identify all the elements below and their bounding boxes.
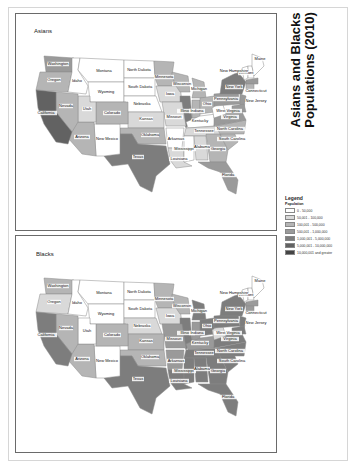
state-label-texas: Texas — [133, 376, 143, 381]
state-label-connecticut: Connecticut — [245, 310, 267, 315]
state-label-oklahoma: Oklahoma — [141, 132, 160, 137]
state-label-utah: Utah — [83, 106, 91, 111]
state-label-ohio: Ohio — [203, 101, 212, 106]
legend-row: 5,000,001 - 10,000,000 — [285, 242, 347, 249]
state-label-arkansas: Arkansas — [168, 136, 185, 141]
legend-row: 10,000,001 and greater — [285, 249, 347, 256]
legend-row: 1,000,001 - 5,000,000 — [285, 235, 347, 242]
state-label-nevada: Nevada — [59, 103, 74, 108]
state-label-oregon: Oregon — [47, 77, 60, 82]
state-label-south-dakota: South Dakota — [128, 84, 153, 89]
state-label-new-york: New York — [226, 306, 243, 311]
state-label-ohio: Ohio — [203, 323, 212, 328]
legend-swatch — [285, 236, 295, 241]
legend-title: Legend — [285, 195, 347, 201]
state-label-idaho: Idaho — [72, 78, 83, 83]
legend-label: 50,001 - 100,000 — [297, 216, 323, 220]
state-label-virginia: Virginia — [223, 336, 237, 341]
state-florida — [198, 384, 238, 416]
state-label-kentucky: Kentucky — [192, 118, 208, 123]
asians-us-map: WashingtonOregonIdahoMontanaWyomingNorth… — [16, 14, 276, 230]
state-label-oklahoma: Oklahoma — [141, 354, 160, 359]
legend-label: 500,001 - 1,000,000 — [297, 230, 327, 234]
state-label-louisiana: Louisiana — [170, 156, 188, 161]
legend-label: 1,000,001 - 5,000,000 — [297, 237, 330, 241]
state-label-new-mexico: New Mexico — [96, 358, 119, 363]
state-label-north-carolina: North Carolina — [217, 126, 244, 131]
state-label-connecticut: Connecticut — [245, 88, 267, 93]
state-label-pennsylvania: Pennsylvania — [214, 96, 239, 101]
state-label-nevada: Nevada — [59, 325, 74, 330]
state-label-minnesota: Minnesota — [155, 296, 174, 301]
legend-subtitle: Population — [285, 202, 347, 206]
state-label-georgia: Georgia — [211, 368, 226, 373]
asians-map-frame: Asians WashingtonOregonIdahoMontanaWyomi… — [15, 13, 277, 231]
state-label-missouri: Missouri — [167, 336, 182, 341]
state-label-kansas: Kansas — [139, 338, 152, 343]
state-label-montana: Montana — [96, 68, 112, 73]
state-label-nebraska: Nebraska — [133, 323, 151, 328]
state-label-south-dakota: South Dakota — [128, 306, 153, 311]
state-label-utah: Utah — [83, 328, 91, 333]
state-label-new-hampshire: New Hampshire — [220, 68, 249, 73]
legend-swatch — [285, 222, 295, 227]
state-label-new-jersey: New Jersey — [246, 320, 267, 325]
legend-row: 100,001 - 500,000 — [285, 221, 347, 228]
state-label-michigan: Michigan — [191, 86, 207, 91]
legend-label: 100,001 - 500,000 — [297, 223, 325, 227]
state-massachusetts — [246, 78, 258, 84]
state-florida — [198, 162, 238, 194]
state-label-idaho: Idaho — [72, 300, 83, 305]
figure-title-line-1: Asians and Blacks — [289, 12, 303, 128]
state-massachusetts — [246, 300, 258, 306]
state-label-missouri: Missouri — [167, 114, 182, 119]
state-label-pennsylvania: Pennsylvania — [214, 318, 239, 323]
state-label-tennessee: Tennessee — [194, 128, 214, 133]
state-new-york — [220, 294, 246, 316]
state-label-oregon: Oregon — [47, 299, 60, 304]
legend-label: 10,000,001 and greater — [297, 251, 332, 255]
state-label-north-dakota: North Dakota — [127, 289, 151, 294]
state-label-georgia: Georgia — [211, 146, 226, 151]
legend-row: 50,001 - 100,000 — [285, 214, 347, 221]
legend-swatch — [285, 215, 295, 220]
state-label-indiana: Indiana — [190, 330, 204, 335]
state-label-wisconsin: Wisconsin — [173, 303, 191, 308]
state-label-tennessee: Tennessee — [194, 350, 214, 355]
legend: Legend Population 0 - 50,000 50,001 - 10… — [285, 195, 347, 256]
state-label-colorado: Colorado — [104, 332, 121, 337]
state-label-arkansas: Arkansas — [168, 358, 185, 363]
state-label-florida: Florida — [222, 172, 235, 177]
state-label-virginia: Virginia — [223, 114, 237, 119]
legend-label: 0 - 50,000 — [297, 209, 312, 213]
state-label-maine: Maine — [255, 56, 267, 61]
state-label-california: California — [38, 332, 56, 337]
state-label-new-jersey: New Jersey — [246, 98, 267, 103]
state-label-west-virginia: West Virginia — [216, 330, 240, 335]
state-label-nebraska: Nebraska — [133, 101, 151, 106]
state-label-new-mexico: New Mexico — [96, 136, 119, 141]
state-label-iowa: Iowa — [166, 313, 175, 318]
state-label-alabama: Alabama — [194, 366, 211, 371]
figure-title-line-2: Populations (2010) — [303, 12, 317, 128]
state-label-maine: Maine — [255, 278, 267, 283]
state-label-kansas: Kansas — [139, 116, 152, 121]
state-label-north-dakota: North Dakota — [127, 67, 151, 72]
blacks-map-frame: Blacks WashingtonOregonIdahoMontanaWyomi… — [15, 235, 277, 453]
state-label-wisconsin: Wisconsin — [173, 81, 191, 86]
state-new-york — [220, 72, 246, 94]
state-label-michigan: Michigan — [191, 308, 207, 313]
state-label-north-carolina: North Carolina — [217, 348, 244, 353]
legend-swatch — [285, 250, 295, 255]
state-label-washington: Washington — [48, 61, 69, 66]
state-label-new-hampshire: New Hampshire — [220, 290, 249, 295]
state-label-louisiana: Louisiana — [170, 378, 188, 383]
state-label-mississippi: Mississippi — [174, 368, 193, 373]
state-label-colorado: Colorado — [104, 110, 121, 115]
state-label-kentucky: Kentucky — [192, 340, 208, 345]
state-label-iowa: Iowa — [166, 91, 175, 96]
state-label-alabama: Alabama — [194, 144, 211, 149]
state-label-florida: Florida — [222, 394, 235, 399]
state-label-montana: Montana — [96, 290, 112, 295]
state-label-indiana: Indiana — [190, 108, 204, 113]
